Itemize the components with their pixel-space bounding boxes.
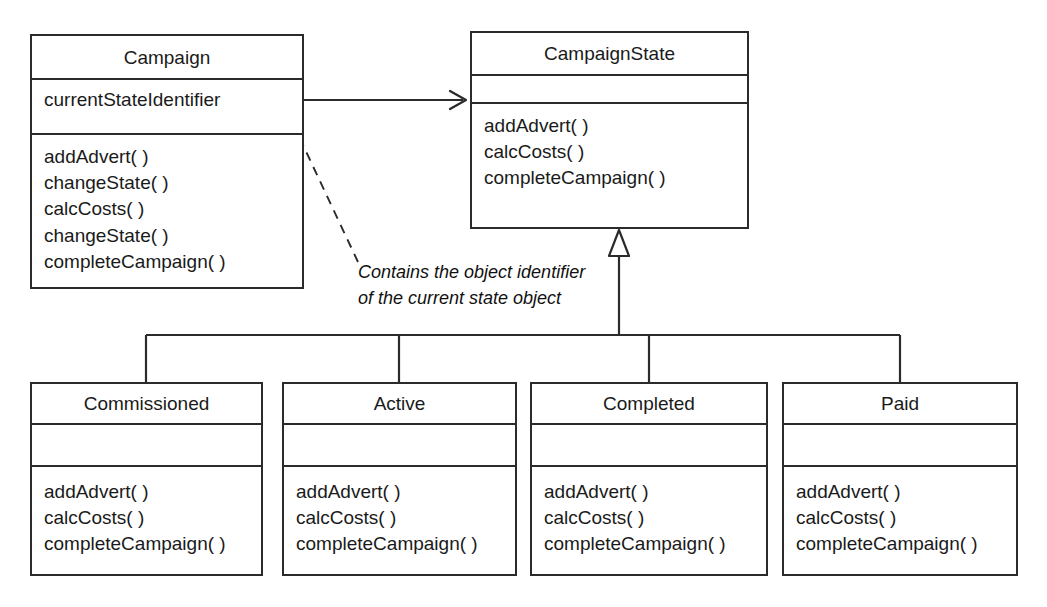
operation-item: calcCosts( ) [44,196,292,222]
class-box-commissioned[interactable]: Commissioned addAdvert( ) calcCosts( ) c… [30,382,263,576]
operation-item: addAdvert( ) [544,479,756,505]
operation-item: calcCosts( ) [296,505,505,531]
operation-item: completeCampaign( ) [484,165,737,191]
class-attributes-paid [784,425,1016,467]
operation-item: calcCosts( ) [544,505,756,531]
operation-item: addAdvert( ) [44,479,251,505]
class-operations-commissioned: addAdvert( ) calcCosts( ) completeCampai… [32,467,261,574]
class-operations-campaign: addAdvert( ) changeState( ) calcCosts( )… [32,135,302,287]
class-name-commissioned: Commissioned [32,384,261,425]
class-attributes-campaign: currentStateIdentifier [32,80,302,135]
operation-item: completeCampaign( ) [44,249,292,275]
class-attributes-commissioned [32,425,261,467]
class-operations-active: addAdvert( ) calcCosts( ) completeCampai… [284,467,515,574]
class-name-completed: Completed [532,384,766,425]
note-annotation: Contains the object identifier of the cu… [358,259,618,311]
attribute-item: currentStateIdentifier [44,87,292,112]
operation-item: completeCampaign( ) [796,531,1006,557]
operation-item: calcCosts( ) [484,139,737,165]
association-connector [304,91,466,109]
class-name-active: Active [284,384,515,425]
class-attributes-completed [532,425,766,467]
class-attributes-campaignstate [472,76,747,104]
class-box-active[interactable]: Active addAdvert( ) calcCosts( ) complet… [282,382,517,576]
note-line-1: Contains the object identifier [358,259,618,285]
note-line-2: of the current state object [358,285,618,311]
class-name-campaign: Campaign [32,36,302,80]
operation-item: addAdvert( ) [484,113,737,139]
operation-item: addAdvert( ) [296,479,505,505]
operation-item: changeState( ) [44,223,292,249]
operation-item: addAdvert( ) [44,144,292,170]
class-operations-completed: addAdvert( ) calcCosts( ) completeCampai… [532,467,766,574]
class-box-campaignstate[interactable]: CampaignState addAdvert( ) calcCosts( ) … [470,31,749,229]
operation-item: addAdvert( ) [796,479,1006,505]
class-box-campaign[interactable]: Campaign currentStateIdentifier addAdver… [30,34,304,289]
class-box-completed[interactable]: Completed addAdvert( ) calcCosts( ) comp… [530,382,768,576]
class-name-paid: Paid [784,384,1016,425]
class-attributes-active [284,425,515,467]
class-operations-paid: addAdvert( ) calcCosts( ) completeCampai… [784,467,1016,574]
operation-item: changeState( ) [44,170,292,196]
operation-item: calcCosts( ) [44,505,251,531]
operation-item: completeCampaign( ) [296,531,505,557]
class-operations-campaignstate: addAdvert( ) calcCosts( ) completeCampai… [472,104,747,227]
operation-item: calcCosts( ) [796,505,1006,531]
class-name-campaignstate: CampaignState [472,33,747,76]
class-box-paid[interactable]: Paid addAdvert( ) calcCosts( ) completeC… [782,382,1018,576]
uml-class-diagram: Campaign currentStateIdentifier addAdver… [0,0,1047,607]
operation-item: completeCampaign( ) [44,531,251,557]
operation-item: completeCampaign( ) [544,531,756,557]
